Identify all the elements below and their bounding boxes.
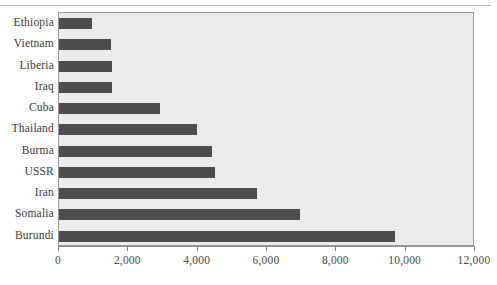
bar-row — [59, 13, 475, 34]
x-tick-label: 12,000 — [458, 254, 491, 266]
bar — [59, 231, 395, 242]
x-tick-label: 4,000 — [183, 254, 210, 266]
x-tick-label: 6,000 — [253, 254, 280, 266]
bar-row — [59, 183, 475, 204]
x-tick-label: 0 — [55, 254, 61, 266]
category-label: Ethiopia — [0, 16, 54, 28]
bar — [59, 167, 215, 178]
bar — [59, 103, 160, 114]
x-tick — [474, 246, 475, 251]
category-label: Iran — [0, 186, 54, 198]
x-tick — [405, 246, 406, 251]
x-tick-label: 8,000 — [322, 254, 349, 266]
category-label: Burma — [0, 144, 54, 156]
x-tick — [266, 246, 267, 251]
bar-row — [59, 204, 475, 225]
bar-row — [59, 226, 475, 247]
x-tick — [58, 246, 59, 251]
bar-row — [59, 119, 475, 140]
category-label: Somalia — [0, 207, 54, 219]
bar — [59, 124, 197, 135]
bar-row — [59, 98, 475, 119]
category-label: Vietnam — [0, 37, 54, 49]
category-label: Liberia — [0, 59, 54, 71]
bar-row — [59, 77, 475, 98]
bar — [59, 61, 112, 72]
x-tick — [197, 246, 198, 251]
x-tick-label: 10,000 — [388, 254, 421, 266]
page-top-rule — [0, 5, 491, 6]
category-label: Burundi — [0, 229, 54, 241]
bar — [59, 188, 257, 199]
bar-chart: EthiopiaVietnamLiberiaIraqCubaThailandBu… — [0, 8, 497, 285]
bar-row — [59, 34, 475, 55]
plot-area — [58, 12, 474, 246]
x-tick — [335, 246, 336, 251]
category-label: Cuba — [0, 101, 54, 113]
bar-row — [59, 56, 475, 77]
category-axis-labels: EthiopiaVietnamLiberiaIraqCubaThailandBu… — [0, 12, 54, 246]
bar — [59, 18, 92, 29]
x-tick-label: 2,000 — [114, 254, 141, 266]
bar-row — [59, 141, 475, 162]
category-label: Thailand — [0, 122, 54, 134]
bar — [59, 39, 111, 50]
bar — [59, 82, 112, 93]
category-label: Iraq — [0, 80, 54, 92]
bar — [59, 146, 212, 157]
chart-page: EthiopiaVietnamLiberiaIraqCubaThailandBu… — [0, 0, 497, 285]
category-label: USSR — [0, 165, 54, 177]
x-tick — [127, 246, 128, 251]
bar-row — [59, 162, 475, 183]
bar — [59, 209, 300, 220]
